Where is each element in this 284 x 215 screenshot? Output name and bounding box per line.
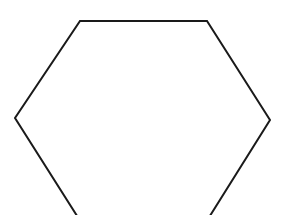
hexagon-canvas [0, 0, 284, 215]
hexagon-shape [15, 21, 270, 215]
